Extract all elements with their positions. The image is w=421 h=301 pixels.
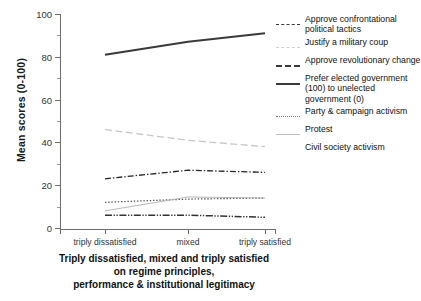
legend-item-label: Justify a military coup (305, 37, 421, 47)
x-axis-tick (265, 229, 266, 234)
legend-item[interactable]: Protest (276, 124, 421, 140)
y-axis-tick-label: 100 (22, 9, 52, 20)
series-line-0 (105, 170, 265, 179)
y-axis-tick-label: 40 (22, 137, 52, 148)
plot-area (60, 14, 275, 228)
series-line-4 (105, 198, 265, 202)
x-axis-title-line-3: performance & institutional legitimacy (28, 278, 300, 291)
legend-item-label: Civil society activism (305, 142, 421, 152)
x-axis-title-line-1: Triply dissatisfied, mixed and triply sa… (28, 252, 300, 265)
series-line-1 (105, 130, 265, 147)
x-axis-title: Triply dissatisfied, mixed and triply sa… (28, 252, 300, 291)
y-axis-tick-label: 0 (22, 223, 52, 234)
legend-item[interactable]: Party & campaign activism (276, 106, 421, 122)
x-axis-title-line-2: on regime principles, (28, 265, 300, 278)
x-axis-tick (188, 229, 189, 234)
legend-line-sample-icon (276, 128, 300, 140)
x-axis-tick (105, 229, 106, 234)
x-axis-end-tick (275, 229, 276, 234)
legend-line-sample-icon (276, 18, 300, 30)
legend: Approve confrontational political tactic… (276, 14, 421, 160)
y-axis: 020406080100 (0, 14, 60, 229)
x-axis-tick-label: triply dissatisfied (73, 237, 136, 247)
y-axis-tick-label: 20 (22, 180, 52, 191)
x-axis-line (60, 229, 276, 230)
legend-line-sample-icon (276, 146, 300, 158)
legend-item-label: Prefer elected government (100) to unele… (305, 73, 421, 104)
x-axis-tick-label: triply satisfied (239, 237, 291, 247)
series-lines (60, 14, 275, 228)
legend-item[interactable]: Civil society activism (276, 142, 421, 158)
legend-line-sample-icon (276, 77, 300, 89)
x-axis-end-tick (60, 229, 61, 234)
legend-item-label: Party & campaign activism (305, 106, 421, 116)
legend-item-label: Approve revolutionary change (305, 55, 421, 65)
legend-item[interactable]: Justify a military coup (276, 37, 421, 53)
series-line-3 (105, 33, 265, 54)
legend-item[interactable]: Approve confrontational political tactic… (276, 14, 421, 35)
legend-line-sample-icon (276, 41, 300, 53)
legend-line-sample-icon (276, 59, 300, 71)
y-axis-tick-label: 60 (22, 94, 52, 105)
y-axis-tick-label: 80 (22, 51, 52, 62)
chart-figure: Mean scores (0-100) 020406080100 Triply … (0, 0, 421, 301)
legend-line-sample-icon (276, 110, 300, 122)
legend-item-label: Approve confrontational political tactic… (305, 14, 421, 35)
legend-item[interactable]: Approve revolutionary change (276, 55, 421, 71)
series-line-2 (105, 215, 265, 217)
legend-item-label: Protest (305, 124, 421, 134)
legend-item[interactable]: Prefer elected government (100) to unele… (276, 73, 421, 104)
x-axis-tick-label: mixed (177, 237, 200, 247)
